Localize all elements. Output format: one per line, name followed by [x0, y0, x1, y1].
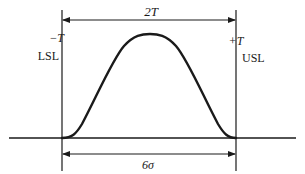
distribution-curve: [62, 34, 236, 138]
tolerance-width-label: 2T: [144, 4, 159, 19]
capability-diagram: 2T −T LSL +T USL 6σ: [0, 0, 305, 174]
upper-tolerance-label: +T: [229, 34, 245, 48]
lower-tolerance-label: −T: [49, 31, 65, 45]
lsl-label: LSL: [38, 49, 59, 63]
process-spread-label: 6σ: [142, 158, 155, 172]
usl-label: USL: [242, 51, 265, 65]
